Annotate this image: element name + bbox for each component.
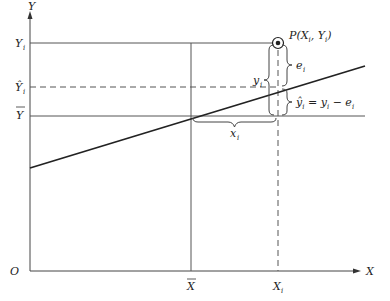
origin-label: O (10, 265, 19, 278)
y-tick-ybar: Y (16, 107, 25, 122)
xi-label: x i (230, 127, 239, 142)
ei-brace (282, 45, 292, 86)
point-p (273, 38, 284, 49)
axes (28, 11, 362, 274)
yhat-brace (282, 89, 292, 115)
regression-line (30, 66, 365, 168)
ei-label: e i (296, 59, 305, 74)
regression-diagram: Y X O Y i Ŷ i Y X X i P(Xi, Yi) e i y i … (0, 0, 390, 301)
x-axis-arrow-icon (353, 269, 361, 274)
y-axis-label: Y (28, 0, 37, 13)
svg-text:P(Xi, Yi): P(Xi, Yi) (288, 29, 332, 44)
svg-text:i: i (23, 88, 25, 96)
y-tick-yhat: Ŷ i (15, 80, 25, 96)
svg-text:y: y (252, 74, 260, 87)
x-axis-label: X (365, 265, 375, 278)
svg-text:ŷi = yi − ei: ŷi = yi − ei (295, 96, 354, 111)
point-label: P(Xi, Yi) (288, 29, 332, 44)
x-tick-xi: X i (272, 280, 283, 295)
svg-text:i: i (260, 81, 262, 89)
y-tick-yi: Y i (15, 37, 25, 52)
svg-text:i: i (237, 134, 239, 142)
yhat-equation: ŷi = yi − ei (295, 96, 354, 111)
svg-text:i: i (281, 287, 283, 295)
svg-text:x: x (230, 127, 237, 140)
xi-brace (193, 118, 276, 127)
svg-text:Y: Y (16, 109, 25, 122)
yi-brace (264, 45, 274, 115)
svg-text:X: X (186, 280, 196, 293)
svg-text:i: i (23, 44, 25, 52)
x-tick-xbar: X (186, 279, 196, 293)
svg-text:e: e (296, 59, 303, 72)
svg-text:i: i (303, 66, 305, 74)
yi-label: y i (252, 74, 262, 89)
